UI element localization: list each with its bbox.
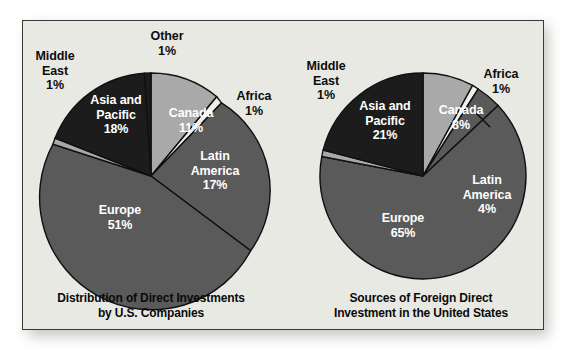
label-africa-right: Africa 1% [471, 67, 531, 96]
right-caption-line2: Investment in the United States [305, 306, 537, 321]
label-asia-line2: Pacific [343, 114, 427, 129]
label-asia-line1: Asia and [343, 99, 427, 114]
label-middle-east-line1: Middle [295, 59, 357, 74]
label-latin-line1: Latin [451, 173, 523, 188]
label-europe-pct: 65% [368, 226, 438, 241]
label-middle-east-right: Middle East 1% [295, 59, 357, 103]
right-chart-caption: Sources of Foreign Direct Investment in … [305, 291, 537, 321]
figure-panel: Other 1% Middle East 1% Asia and Pacific… [22, 20, 544, 330]
label-latin-line2: America [451, 188, 523, 203]
label-canada-name: Canada [429, 103, 493, 118]
label-africa-pct: 1% [471, 82, 531, 97]
label-asia-pct: 21% [343, 128, 427, 143]
label-europe-right: Europe 65% [368, 211, 438, 240]
panel-inner: Other 1% Middle East 1% Asia and Pacific… [23, 21, 543, 329]
label-latin-pct: 4% [451, 202, 523, 217]
label-latin-america-right: Latin America 4% [451, 173, 523, 217]
label-middle-east-line2: East [295, 74, 357, 89]
right-pie-chart: Middle East 1% Asia and Pacific 21% Cana… [23, 21, 543, 329]
figure-root: Other 1% Middle East 1% Asia and Pacific… [0, 0, 583, 359]
right-caption-line1: Sources of Foreign Direct [305, 291, 537, 306]
label-asia-pacific-right: Asia and Pacific 21% [343, 99, 427, 143]
label-canada-pct: 8% [429, 118, 493, 133]
label-europe-name: Europe [368, 211, 438, 226]
label-africa-name: Africa [471, 67, 531, 82]
label-canada-right: Canada 8% [429, 103, 493, 132]
